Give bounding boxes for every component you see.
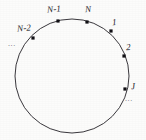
node-dot-N: [85, 20, 88, 23]
circle-outline: [15, 19, 129, 133]
ellipsis-annotation-1: ...: [8, 40, 16, 48]
node-label-N1: N-1: [47, 5, 62, 15]
figure-canvas: [0, 0, 146, 140]
ellipsis-annotation-2: ...: [125, 95, 133, 103]
node-label-2: 2: [126, 43, 131, 52]
circle-index-figure: N-2N-1N12J ......: [0, 0, 146, 140]
node-dot-J: [123, 87, 126, 90]
node-dot-N1: [56, 19, 59, 22]
node-dot-group: [31, 19, 126, 90]
node-dot-N2: [31, 36, 34, 39]
node-label-J: J: [131, 82, 136, 91]
node-label-1: 1: [112, 18, 117, 27]
node-dot-2: [122, 54, 125, 57]
node-dot-1: [109, 29, 112, 32]
node-label-N: N: [85, 5, 92, 14]
node-label-N2: N-2: [17, 24, 32, 34]
